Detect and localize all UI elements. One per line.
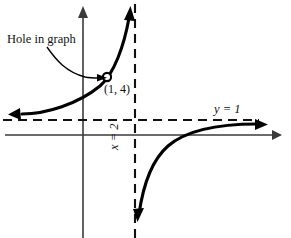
point-coordinate-label: (1, 4) xyxy=(104,83,130,95)
x-axis xyxy=(5,130,282,140)
horizontal-asymptote-label: y = 1 xyxy=(214,103,240,116)
hole-annotation-arrow xyxy=(47,47,107,82)
vertical-asymptote-label: x = 2 xyxy=(108,124,121,150)
curve-left-branch xyxy=(8,6,135,120)
hole-annotation-label: Hole in graph xyxy=(7,33,76,46)
y-axis xyxy=(78,6,88,238)
rational-function-graph-figure: Hole in graph (1, 4) y = 1 x = 2 xyxy=(0,0,291,238)
